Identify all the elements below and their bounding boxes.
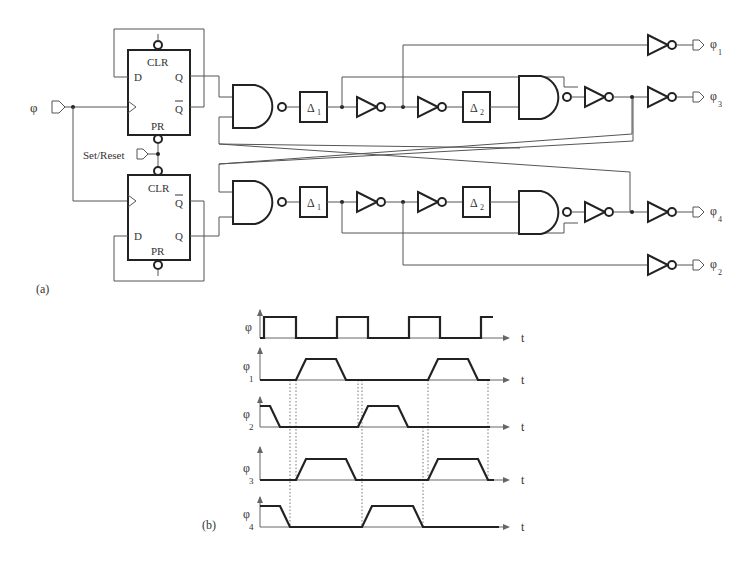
delay-sub: 1 <box>317 203 321 212</box>
signal-sub: 3 <box>249 476 254 486</box>
nand-gate <box>519 191 558 234</box>
signal-sub: 1 <box>249 374 254 384</box>
inverter <box>648 35 668 55</box>
output-sub: 4 <box>718 215 722 224</box>
d-label: D <box>134 230 142 242</box>
clr-bubble <box>154 41 162 49</box>
qbar-label: Q <box>175 197 183 209</box>
signal-label: φ <box>243 407 250 421</box>
clr-label: CLR <box>147 56 169 68</box>
output-sub: 2 <box>718 268 722 277</box>
pr-bubble <box>154 261 162 269</box>
delay-label: Δ <box>470 101 478 115</box>
signal-phi4: φ 4 t <box>243 496 525 534</box>
output-sub: 1 <box>718 48 722 57</box>
circuit-schematic: φ CLR D Q Q PR Set/Reset <box>30 29 722 296</box>
inverter <box>585 87 605 107</box>
time-axis-label: t <box>521 420 525 434</box>
delay-sub: 2 <box>480 203 484 212</box>
signal-phi3: φ 3 t <box>243 446 525 487</box>
signal-label: φ <box>243 461 250 475</box>
output-label: φ <box>710 257 717 271</box>
time-axis-label: t <box>521 331 525 345</box>
signal-phi1: φ 1 t <box>243 347 525 387</box>
output-label: φ <box>710 89 717 103</box>
nand-gate <box>233 181 272 224</box>
signal-label: φ <box>245 320 252 334</box>
bottom-chain: Δ 1 Δ 2 <box>233 181 648 265</box>
signal-phi: φ t <box>245 309 525 345</box>
delay-sub: 1 <box>317 108 321 117</box>
output-port-icon <box>693 260 704 270</box>
flipflop-top: CLR D Q Q PR <box>114 29 204 143</box>
input-phi-label: φ <box>30 100 38 115</box>
time-axis-label: t <box>521 373 525 387</box>
signal-label: φ <box>243 507 250 521</box>
output-phi1: φ 1 <box>648 35 722 57</box>
flipflop-bottom: CLR Q D Q PR <box>114 167 204 281</box>
output-label: φ <box>710 37 717 51</box>
top-chain: Δ 1 Δ 2 <box>233 45 648 128</box>
signal-sub: 4 <box>249 522 254 532</box>
delay-sub: 2 <box>480 108 484 117</box>
signal-label: φ <box>243 359 250 373</box>
inverter <box>357 97 377 117</box>
signal-sub: 2 <box>249 422 254 432</box>
signal-phi2: φ 2 t <box>243 396 525 434</box>
set-reset-port-icon <box>137 149 148 159</box>
pr-label: PR <box>151 120 165 132</box>
clock-generator-figure: φ CLR D Q Q PR Set/Reset <box>0 0 746 566</box>
output-port-icon <box>693 92 704 102</box>
q-label: Q <box>175 230 183 242</box>
inverter <box>418 97 438 117</box>
time-axis-label: t <box>521 520 525 534</box>
output-port-icon <box>693 40 704 50</box>
inverter <box>648 255 668 275</box>
part-a-label: (a) <box>36 282 49 296</box>
inverter <box>357 192 377 212</box>
clr-label: CLR <box>148 182 170 194</box>
set-reset-label: Set/Reset <box>83 149 125 161</box>
output-port-icon <box>693 207 704 217</box>
clr-bubble <box>154 167 162 175</box>
output-label: φ <box>710 204 717 218</box>
output-phi4: φ 4 <box>648 202 722 224</box>
time-axis-label: t <box>521 473 525 487</box>
inverter <box>418 192 438 212</box>
d-label: D <box>134 71 142 83</box>
delay-label: Δ <box>470 196 478 210</box>
nand-gate <box>233 85 272 128</box>
output-sub: 3 <box>718 100 722 109</box>
pr-bubble <box>154 135 162 143</box>
pr-label: PR <box>151 245 165 257</box>
part-b-label: (b) <box>202 518 216 532</box>
qbar-label: Q <box>175 103 183 115</box>
inverter <box>648 202 668 222</box>
inverter <box>585 202 605 222</box>
delay-label: Δ <box>307 101 315 115</box>
q-label: Q <box>175 71 183 83</box>
output-phi2: φ 2 <box>648 255 722 277</box>
timing-diagram: φ t φ 1 t φ 2 t φ 3 t <box>202 309 525 534</box>
delay-label: Δ <box>307 196 315 210</box>
inverter <box>648 87 668 107</box>
nand-gate <box>519 76 558 119</box>
input-port-icon <box>52 101 65 113</box>
output-phi3: φ 3 <box>648 87 722 109</box>
